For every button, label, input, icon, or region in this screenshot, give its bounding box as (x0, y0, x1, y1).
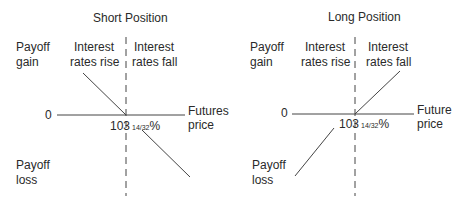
long-payoff-gain-2: gain (250, 55, 273, 69)
long-region-right-2: rates fall (366, 55, 410, 69)
short-payoff-lower (142, 130, 190, 177)
long-payoff-loss-1: Payoff (252, 158, 286, 172)
short-payoff-upper (83, 73, 126, 115)
payoff-diagram-lines (0, 0, 467, 202)
short-x-label-2: price (188, 118, 214, 132)
long-strike: 103 14/32% (339, 117, 389, 133)
short-payoff-gain-1: Payoff (16, 40, 50, 54)
short-zero: 0 (45, 108, 52, 122)
short-payoff-loss-1: Payoff (16, 158, 50, 172)
long-x-label-2: price (417, 117, 443, 131)
short-x-label-1: Futures (188, 104, 229, 118)
long-payoff-upper (355, 71, 400, 114)
short-strike: 103 14/32% (110, 119, 160, 135)
long-region-right-1: Interest (366, 40, 410, 54)
long-title: Long Position (328, 10, 401, 24)
short-region-left-1: Interest (72, 40, 116, 54)
short-region-right-1: Interest (132, 40, 176, 54)
short-payoff-loss-2: loss (16, 173, 37, 187)
long-payoff-gain-1: Payoff (250, 40, 284, 54)
long-region-left-1: Interest (301, 40, 349, 54)
long-x-label-1: Future (417, 103, 452, 117)
long-payoff-loss-2: loss (252, 173, 273, 187)
long-zero: 0 (281, 106, 288, 120)
short-title: Short Position (93, 11, 168, 25)
short-payoff-gain-2: gain (16, 55, 39, 69)
long-region-left-2: rates rise (301, 55, 349, 69)
long-payoff-lower (295, 128, 334, 176)
short-region-left-2: rates rise (70, 55, 118, 69)
short-region-right-2: rates fall (132, 55, 176, 69)
